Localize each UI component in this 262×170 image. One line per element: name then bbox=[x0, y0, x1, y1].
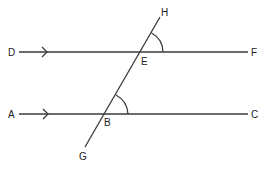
angle-arc-e bbox=[152, 33, 164, 52]
label-a: A bbox=[8, 109, 15, 120]
label-g: G bbox=[79, 151, 87, 162]
label-h: H bbox=[161, 7, 168, 18]
label-d: D bbox=[8, 47, 15, 58]
label-f: F bbox=[251, 47, 257, 58]
label-e: E bbox=[141, 56, 148, 67]
label-b: B bbox=[104, 117, 111, 128]
label-c: C bbox=[251, 109, 258, 120]
transversal-gh bbox=[85, 17, 160, 147]
parallel-lines-transversal-diagram: D F E H A C B G bbox=[0, 0, 262, 170]
angle-arc-b bbox=[116, 95, 128, 114]
